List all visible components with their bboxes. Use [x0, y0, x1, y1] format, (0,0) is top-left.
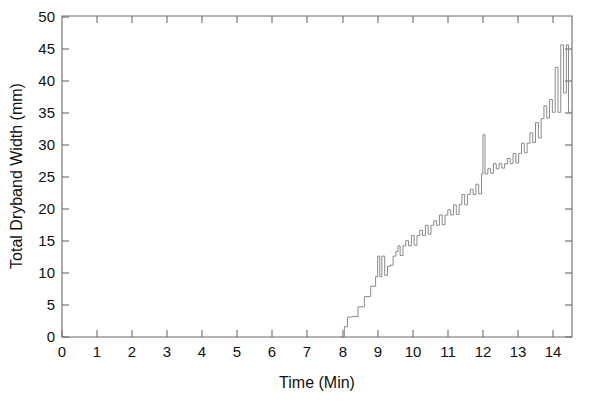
x-label-10: 10 — [405, 343, 422, 360]
y-label-0: 0 — [47, 328, 55, 345]
y-label-20: 20 — [38, 200, 55, 217]
x-label-1: 1 — [93, 343, 101, 360]
chart-figure: 0 5 10 15 20 25 30 35 40 45 50 — [0, 0, 590, 408]
y-label-15: 15 — [38, 232, 55, 249]
axes-frame — [62, 16, 572, 337]
plot-border — [62, 16, 572, 337]
y-label-35: 35 — [38, 104, 55, 121]
data-series-total-dryband-width — [340, 45, 570, 337]
y-label-25: 25 — [38, 168, 55, 185]
x-label-11: 11 — [440, 343, 456, 360]
y-axis-ticks — [62, 17, 69, 337]
x-label-13: 13 — [510, 343, 527, 360]
x-label-14: 14 — [545, 343, 562, 360]
x-label-8: 8 — [339, 343, 347, 360]
x-axis-ticks — [62, 330, 553, 337]
x-label-6: 6 — [268, 343, 276, 360]
y-label-50: 50 — [38, 8, 55, 25]
x-label-4: 4 — [198, 343, 206, 360]
y-label-10: 10 — [38, 264, 55, 281]
y-axis-title: Total Dryband Width (mm) — [8, 83, 25, 269]
x-axis-tick-labels: 0 1 2 3 4 5 6 7 8 9 10 11 12 13 14 — [58, 343, 562, 360]
x-label-5: 5 — [233, 343, 241, 360]
x-label-0: 0 — [58, 343, 66, 360]
x-axis-top-ticks — [97, 16, 553, 23]
y-label-45: 45 — [38, 40, 55, 57]
y-label-40: 40 — [38, 72, 55, 89]
y-axis-tick-labels: 0 5 10 15 20 25 30 35 40 45 50 — [38, 8, 55, 345]
x-label-7: 7 — [303, 343, 311, 360]
x-label-3: 3 — [163, 343, 171, 360]
y-label-30: 30 — [38, 136, 55, 153]
x-axis-title: Time (Min) — [279, 374, 355, 391]
x-label-9: 9 — [374, 343, 382, 360]
x-label-12: 12 — [475, 343, 492, 360]
x-label-2: 2 — [128, 343, 136, 360]
line-chart: 0 5 10 15 20 25 30 35 40 45 50 — [0, 0, 590, 408]
y-label-5: 5 — [47, 296, 55, 313]
